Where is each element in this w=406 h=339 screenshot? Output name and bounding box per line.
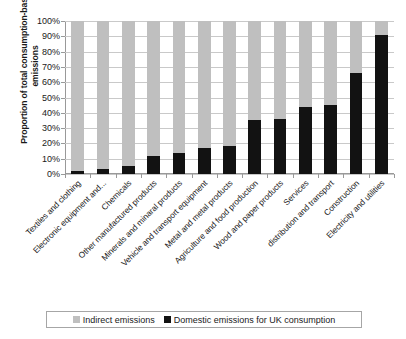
x-axis-tick-mark: [343, 174, 344, 178]
bar-segment-domestic[interactable]: [147, 156, 160, 174]
y-axis-tick-label: 80%: [14, 47, 60, 57]
bar-segment-indirect[interactable]: [350, 21, 363, 73]
y-axis-tick-label: 30%: [14, 123, 60, 133]
bar-column[interactable]: [122, 21, 135, 174]
bar-segment-indirect[interactable]: [122, 21, 135, 166]
y-axis-tick-label: 90%: [14, 31, 60, 41]
x-axis-tick-mark: [293, 174, 294, 178]
bar-segment-domestic[interactable]: [198, 148, 211, 174]
y-axis-tick-label: 70%: [14, 62, 60, 72]
bar-column[interactable]: [173, 21, 186, 174]
legend-item-domestic[interactable]: Domestic emissions for UK consumption: [164, 315, 336, 325]
bar-segment-domestic[interactable]: [324, 105, 337, 174]
y-axis-tick-label: 60%: [14, 77, 60, 87]
bar-column[interactable]: [248, 21, 261, 174]
x-axis-tick-mark: [217, 174, 218, 178]
y-axis-tick-label: 40%: [14, 108, 60, 118]
legend-label-indirect: Indirect emissions: [83, 315, 155, 325]
x-axis-tick-mark: [267, 174, 268, 178]
bar-column[interactable]: [147, 21, 160, 174]
bar-segment-indirect[interactable]: [97, 21, 110, 169]
bar-column[interactable]: [350, 21, 363, 174]
gridline: [65, 174, 394, 175]
bar-segment-domestic[interactable]: [248, 120, 261, 174]
bar-segment-domestic[interactable]: [71, 171, 84, 174]
bar-segment-indirect[interactable]: [248, 21, 261, 120]
bar-segment-domestic[interactable]: [97, 169, 110, 174]
bars-layer: [65, 21, 394, 174]
x-axis-tick-mark: [318, 174, 319, 178]
bar-column[interactable]: [375, 21, 388, 174]
stacked-bar-chart: Proportion of total consumption-based em…: [0, 0, 406, 339]
bar-segment-indirect[interactable]: [173, 21, 186, 153]
bar-column[interactable]: [324, 21, 337, 174]
bar-column[interactable]: [71, 21, 84, 174]
x-axis-tick-mark: [166, 174, 167, 178]
bar-segment-indirect[interactable]: [223, 21, 236, 146]
y-axis-tick-label: 100%: [14, 16, 60, 26]
bar-segment-indirect[interactable]: [299, 21, 312, 107]
bar-segment-indirect[interactable]: [324, 21, 337, 105]
x-axis-tick-mark: [369, 174, 370, 178]
x-axis-tick-mark: [90, 174, 91, 178]
legend-swatch-domestic-icon: [164, 316, 171, 323]
x-axis-tick-mark: [65, 174, 66, 178]
x-axis-tick-mark: [192, 174, 193, 178]
chart-legend: Indirect emissions Domestic emissions fo…: [46, 311, 362, 328]
bar-segment-domestic[interactable]: [223, 146, 236, 174]
x-axis-tick-mark: [394, 174, 395, 178]
bar-column[interactable]: [299, 21, 312, 174]
bar-segment-domestic[interactable]: [299, 107, 312, 174]
bar-segment-domestic[interactable]: [350, 73, 363, 174]
bar-segment-indirect[interactable]: [274, 21, 287, 119]
bar-segment-domestic[interactable]: [375, 35, 388, 174]
bar-segment-domestic[interactable]: [122, 166, 135, 174]
bar-segment-domestic[interactable]: [274, 119, 287, 174]
bar-segment-domestic[interactable]: [173, 153, 186, 174]
bar-column[interactable]: [198, 21, 211, 174]
y-axis-tick-label: 0%: [14, 169, 60, 179]
bar-column[interactable]: [97, 21, 110, 174]
y-axis-tick-label: 20%: [14, 138, 60, 148]
bar-segment-indirect[interactable]: [198, 21, 211, 148]
x-axis-tick-mark: [141, 174, 142, 178]
bar-segment-indirect[interactable]: [375, 21, 388, 35]
x-axis-tick-mark: [116, 174, 117, 178]
bar-segment-indirect[interactable]: [71, 21, 84, 171]
legend-label-domestic: Domestic emissions for UK consumption: [174, 315, 336, 325]
bar-column[interactable]: [223, 21, 236, 174]
y-axis-tick-label: 10%: [14, 154, 60, 164]
x-axis-tick-mark: [242, 174, 243, 178]
bar-segment-indirect[interactable]: [147, 21, 160, 156]
y-axis-tick-label: 50%: [14, 93, 60, 103]
bar-column[interactable]: [274, 21, 287, 174]
legend-swatch-indirect-icon: [73, 316, 80, 323]
legend-item-indirect[interactable]: Indirect emissions: [73, 315, 155, 325]
